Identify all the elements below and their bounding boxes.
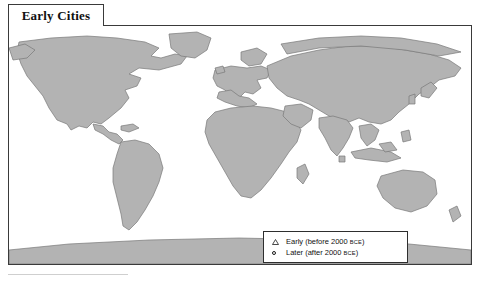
legend-row-early: Early (before 2000 BCE) [272, 236, 401, 247]
legend-label-early-main: Early (before 2000 [286, 237, 350, 246]
legend-label-early: Early (before 2000 BCE) [286, 237, 365, 246]
legend-label-later-tail: ) [356, 248, 359, 257]
world-map-graphic [9, 26, 471, 264]
title-tab: Early Cities [8, 4, 104, 26]
land-korea [409, 94, 415, 104]
legend-row-later: Later (after 2000 BCE) [272, 247, 401, 258]
map-legend: Early (before 2000 BCE) Later (after 200… [263, 231, 408, 263]
legend-circle-icon [272, 251, 286, 255]
legend-label-later-main: Later (after 2000 [286, 248, 344, 257]
bottom-divider [8, 274, 128, 275]
legend-label-early-era: BCE [350, 239, 362, 245]
map-page: Early Cities [0, 0, 480, 282]
legend-label-later: Later (after 2000 BCE) [286, 248, 358, 257]
page-title: Early Cities [22, 8, 90, 24]
legend-triangle-icon [272, 239, 286, 245]
land-philippines [401, 130, 411, 142]
land-sri-lanka [339, 156, 345, 162]
legend-label-early-tail: ) [362, 237, 365, 246]
map-frame: CahokiaTeotihuacánTikalChavín deHuantarJ… [8, 25, 472, 265]
legend-label-later-era: BCE [344, 250, 356, 256]
map-canvas: CahokiaTeotihuacánTikalChavín deHuantarJ… [9, 26, 471, 264]
